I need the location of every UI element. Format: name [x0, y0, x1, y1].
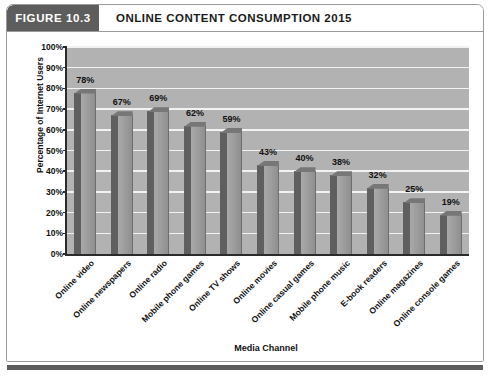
bar-front-face: [118, 115, 133, 254]
bar-value-label: 19%: [442, 197, 460, 207]
bar-slot: 40%: [294, 47, 316, 254]
bar-top-face: [367, 184, 389, 189]
bar-slot: 32%: [367, 47, 389, 254]
bar[interactable]: [220, 128, 242, 254]
bar-front-face: [227, 132, 242, 254]
bar[interactable]: [74, 89, 96, 254]
bar-top-face: [184, 122, 206, 127]
bar-value-label: 78%: [76, 75, 94, 85]
y-axis-tick-labels: 100%90%80%70%60%50%40%30%20%10%0%: [25, 47, 63, 254]
bar-slot: 69%: [147, 47, 169, 254]
bar-front-face: [301, 171, 316, 254]
footer-divider: [7, 365, 483, 370]
bar-top-face: [220, 128, 242, 133]
bar-top-face: [74, 89, 96, 94]
bar-slot: 19%: [440, 47, 462, 254]
bar-slot: 62%: [184, 47, 206, 254]
figure-number-badge: FIGURE 10.3: [7, 5, 99, 31]
bar-slot: 78%: [74, 47, 96, 254]
bar-side-face: [74, 93, 81, 254]
y-axis-tick-label: 0%: [51, 249, 63, 259]
bar-value-label: 40%: [296, 153, 314, 163]
bar-front-face: [410, 202, 425, 254]
bar-value-label: 67%: [113, 97, 131, 107]
y-axis-tick-label: 40%: [46, 166, 63, 176]
bar-side-face: [220, 132, 227, 254]
bar-front-face: [447, 215, 462, 254]
bar-slot: 43%: [257, 47, 279, 254]
bar-side-face: [403, 202, 410, 254]
bar-side-face: [294, 171, 301, 254]
x-axis-tick-label: Mobile phone music: [287, 258, 352, 323]
chart-canvas: Percentage of Internet Users 100%90%80%7…: [7, 32, 483, 362]
y-axis-tick-label: 10%: [46, 228, 63, 238]
bar[interactable]: [294, 167, 316, 254]
x-axis-tick-label: Online console games: [391, 258, 462, 329]
bar-slot: 25%: [403, 47, 425, 254]
bar-side-face: [147, 111, 154, 254]
bar-side-face: [367, 188, 374, 254]
bar[interactable]: [440, 211, 462, 254]
bar-front-face: [337, 175, 352, 254]
bar[interactable]: [403, 198, 425, 254]
bar[interactable]: [111, 111, 133, 254]
y-axis-tick-label: 50%: [46, 146, 63, 156]
bars-layer: 78%67%69%62%59%43%40%38%32%25%19%: [67, 47, 469, 254]
bar-value-label: 69%: [149, 93, 167, 103]
bar-top-face: [294, 167, 316, 172]
bar-top-face: [403, 198, 425, 203]
x-axis-tick-labels: Online videoOnline newspapersOnline radi…: [65, 258, 467, 343]
y-axis-tick-label: 90%: [46, 63, 63, 73]
bar-front-face: [264, 165, 279, 254]
bar[interactable]: [330, 171, 352, 254]
y-axis-tick-label: 20%: [46, 208, 63, 218]
bar[interactable]: [184, 122, 206, 254]
bar-side-face: [440, 215, 447, 254]
bar-side-face: [330, 175, 337, 254]
bar[interactable]: [257, 161, 279, 254]
bar-top-face: [330, 171, 352, 176]
bar[interactable]: [147, 107, 169, 254]
y-axis-tick-label: 100%: [41, 42, 63, 52]
y-axis-tick-label: 80%: [46, 83, 63, 93]
bar-top-face: [257, 161, 279, 166]
bar-side-face: [111, 115, 118, 254]
bar-top-face: [440, 211, 462, 216]
bar-front-face: [374, 188, 389, 254]
bar-top-face: [147, 107, 169, 112]
x-axis-tick-label: Online casual games: [249, 258, 316, 325]
bar-slot: 59%: [220, 47, 242, 254]
x-axis-title: Media Channel: [65, 343, 467, 353]
bar-value-label: 43%: [259, 147, 277, 157]
bar-value-label: 32%: [369, 170, 387, 180]
plot-area: 78%67%69%62%59%43%40%38%32%25%19%: [65, 47, 469, 256]
bar-front-face: [81, 93, 96, 254]
y-axis-tick-label: 70%: [46, 104, 63, 114]
bar-side-face: [184, 126, 191, 254]
figure-header: FIGURE 10.3 ONLINE CONTENT CONSUMPTION 2…: [7, 5, 483, 32]
bar-slot: 38%: [330, 47, 352, 254]
bar-value-label: 59%: [222, 114, 240, 124]
figure-title: ONLINE CONTENT CONSUMPTION 2015: [99, 5, 483, 31]
bar-side-face: [257, 165, 264, 254]
bar-value-label: 62%: [186, 108, 204, 118]
bar[interactable]: [367, 184, 389, 254]
y-axis-tick-label: 30%: [46, 187, 63, 197]
bar-front-face: [191, 126, 206, 254]
bar-front-face: [154, 111, 169, 254]
figure-frame: FIGURE 10.3 ONLINE CONTENT CONSUMPTION 2…: [6, 4, 484, 362]
x-axis-tick-label: Mobile phone games: [139, 258, 206, 325]
y-axis-tick-label: 60%: [46, 125, 63, 135]
bar-value-label: 25%: [405, 184, 423, 194]
bar-value-label: 38%: [332, 157, 350, 167]
bar-top-face: [111, 111, 133, 116]
bar-slot: 67%: [111, 47, 133, 254]
